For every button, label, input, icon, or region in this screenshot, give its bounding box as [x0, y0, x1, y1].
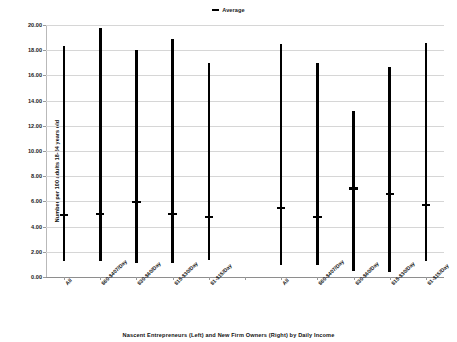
- average-marker: [386, 193, 394, 195]
- y-gridline: [46, 50, 444, 51]
- y-tick-mark: [43, 101, 46, 102]
- y-tick-mark: [43, 201, 46, 202]
- y-tick-label: 14.00: [28, 98, 42, 104]
- y-tick-mark: [43, 25, 46, 26]
- range-line: [425, 43, 428, 262]
- y-gridline: [46, 252, 444, 253]
- y-tick-label: 16.00: [28, 72, 42, 78]
- legend-average-marker-icon: [212, 9, 219, 11]
- y-tick-mark: [43, 252, 46, 253]
- y-gridline: [46, 151, 444, 152]
- y-tick-mark: [43, 227, 46, 228]
- average-marker: [96, 213, 104, 215]
- legend-average-label: Average: [222, 7, 245, 13]
- average-marker: [422, 204, 430, 206]
- y-tick-mark: [43, 151, 46, 152]
- y-tick-label: 6.00: [31, 198, 42, 204]
- x-category-label: All: [281, 277, 290, 286]
- y-tick-label: 10.00: [28, 148, 42, 154]
- average-marker: [313, 216, 321, 218]
- y-gridline: [46, 75, 444, 76]
- range-line: [63, 46, 66, 261]
- y-tick-label: 4.00: [31, 224, 42, 230]
- x-category-label: All: [64, 277, 73, 286]
- y-tick-label: 12.00: [28, 123, 42, 129]
- average-marker: [349, 187, 357, 189]
- chart-legend: Average: [0, 4, 457, 16]
- average-marker: [205, 216, 213, 218]
- y-gridline: [46, 126, 444, 127]
- range-line: [280, 44, 283, 265]
- average-marker: [277, 207, 285, 209]
- y-tick-label: 8.00: [31, 173, 42, 179]
- y-tick-mark: [43, 277, 46, 278]
- range-line: [316, 63, 319, 265]
- y-tick-label: 0.00: [31, 274, 42, 280]
- plot-area: 0.002.004.006.008.0010.0012.0014.0016.00…: [46, 25, 444, 277]
- y-tick-label: 2.00: [31, 249, 42, 255]
- range-line: [388, 67, 391, 272]
- y-tick-mark: [43, 176, 46, 177]
- chart-container: Average Number per 100 adults 18-64 year…: [0, 0, 457, 342]
- y-tick-mark: [43, 126, 46, 127]
- y-gridline: [46, 101, 444, 102]
- range-line: [352, 111, 355, 271]
- average-marker: [60, 214, 68, 216]
- x-tick-mark: [354, 277, 355, 280]
- range-line: [171, 39, 174, 264]
- x-tick-mark: [245, 277, 246, 280]
- average-marker: [168, 213, 176, 215]
- y-gridline: [46, 176, 444, 177]
- range-line: [208, 63, 211, 260]
- y-gridline: [46, 201, 444, 202]
- x-axis-title: Nascent Entrepreneurs (Left) and New Fir…: [0, 332, 457, 338]
- y-gridline: [46, 25, 444, 26]
- range-line: [99, 28, 102, 262]
- y-tick-mark: [43, 75, 46, 76]
- y-tick-label: 20.00: [28, 22, 42, 28]
- average-marker: [132, 201, 140, 203]
- y-tick-label: 18.00: [28, 47, 42, 53]
- y-tick-mark: [43, 50, 46, 51]
- range-line: [135, 50, 138, 263]
- y-gridline: [46, 227, 444, 228]
